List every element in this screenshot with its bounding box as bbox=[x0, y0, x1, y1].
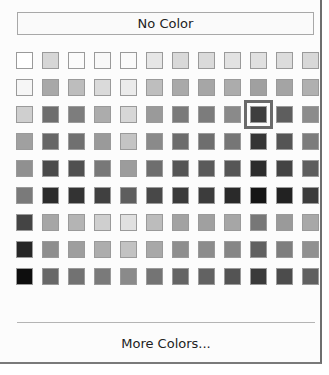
color-swatch[interactable] bbox=[94, 79, 111, 96]
color-swatch[interactable] bbox=[16, 52, 33, 69]
color-swatch[interactable] bbox=[276, 79, 293, 96]
color-swatch[interactable] bbox=[146, 52, 163, 69]
color-swatch[interactable] bbox=[16, 187, 33, 204]
color-swatch[interactable] bbox=[302, 52, 319, 69]
color-swatch[interactable] bbox=[224, 106, 241, 123]
color-swatch[interactable] bbox=[42, 268, 59, 285]
color-swatch[interactable] bbox=[224, 214, 241, 231]
color-swatch[interactable] bbox=[16, 241, 33, 258]
color-swatch[interactable] bbox=[68, 52, 85, 69]
color-swatch[interactable] bbox=[224, 187, 241, 204]
color-swatch[interactable] bbox=[250, 241, 267, 258]
color-swatch[interactable] bbox=[146, 160, 163, 177]
color-swatch[interactable] bbox=[224, 133, 241, 150]
color-swatch[interactable] bbox=[68, 241, 85, 258]
color-swatch[interactable] bbox=[120, 214, 137, 231]
color-swatch[interactable] bbox=[302, 106, 319, 123]
color-swatch[interactable] bbox=[94, 241, 111, 258]
color-swatch[interactable] bbox=[224, 79, 241, 96]
color-swatch[interactable] bbox=[276, 187, 293, 204]
color-swatch[interactable] bbox=[172, 187, 189, 204]
color-swatch[interactable] bbox=[198, 214, 215, 231]
color-swatch[interactable] bbox=[250, 52, 267, 69]
color-swatch[interactable] bbox=[42, 214, 59, 231]
color-swatch[interactable] bbox=[172, 160, 189, 177]
color-swatch[interactable] bbox=[42, 52, 59, 69]
color-swatch[interactable] bbox=[224, 52, 241, 69]
color-swatch[interactable] bbox=[146, 187, 163, 204]
color-swatch[interactable] bbox=[198, 106, 215, 123]
more-colors-button[interactable]: More Colors... bbox=[17, 330, 315, 358]
color-swatch[interactable] bbox=[146, 106, 163, 123]
color-swatch[interactable] bbox=[120, 268, 137, 285]
color-swatch[interactable] bbox=[68, 106, 85, 123]
color-swatch[interactable] bbox=[120, 52, 137, 69]
color-swatch[interactable] bbox=[276, 241, 293, 258]
color-swatch[interactable] bbox=[172, 214, 189, 231]
color-swatch[interactable] bbox=[42, 187, 59, 204]
color-swatch[interactable] bbox=[276, 106, 293, 123]
color-swatch[interactable] bbox=[146, 133, 163, 150]
color-swatch[interactable] bbox=[302, 241, 319, 258]
color-swatch[interactable] bbox=[172, 52, 189, 69]
color-swatch[interactable] bbox=[94, 187, 111, 204]
color-swatch[interactable] bbox=[250, 268, 267, 285]
color-swatch[interactable] bbox=[198, 79, 215, 96]
color-swatch[interactable] bbox=[224, 268, 241, 285]
color-swatch[interactable] bbox=[94, 52, 111, 69]
color-swatch[interactable] bbox=[276, 268, 293, 285]
color-swatch[interactable] bbox=[120, 187, 137, 204]
color-swatch[interactable] bbox=[198, 133, 215, 150]
color-swatch[interactable] bbox=[120, 133, 137, 150]
color-swatch[interactable] bbox=[250, 106, 267, 123]
color-swatch[interactable] bbox=[16, 133, 33, 150]
color-swatch[interactable] bbox=[302, 214, 319, 231]
color-swatch[interactable] bbox=[120, 79, 137, 96]
no-color-button[interactable]: No Color bbox=[17, 12, 314, 35]
color-swatch[interactable] bbox=[250, 79, 267, 96]
color-swatch[interactable] bbox=[276, 52, 293, 69]
color-swatch[interactable] bbox=[276, 160, 293, 177]
color-swatch[interactable] bbox=[302, 79, 319, 96]
color-swatch[interactable] bbox=[198, 268, 215, 285]
color-swatch[interactable] bbox=[120, 106, 137, 123]
color-swatch[interactable] bbox=[198, 160, 215, 177]
color-swatch[interactable] bbox=[68, 79, 85, 96]
color-swatch[interactable] bbox=[68, 133, 85, 150]
color-swatch[interactable] bbox=[94, 160, 111, 177]
color-swatch[interactable] bbox=[198, 241, 215, 258]
color-swatch[interactable] bbox=[68, 214, 85, 231]
color-swatch[interactable] bbox=[94, 214, 111, 231]
color-swatch[interactable] bbox=[68, 187, 85, 204]
color-swatch[interactable] bbox=[172, 241, 189, 258]
color-swatch[interactable] bbox=[42, 160, 59, 177]
color-swatch[interactable] bbox=[94, 133, 111, 150]
color-swatch[interactable] bbox=[146, 241, 163, 258]
color-swatch[interactable] bbox=[250, 160, 267, 177]
color-swatch[interactable] bbox=[68, 160, 85, 177]
color-swatch[interactable] bbox=[172, 268, 189, 285]
color-swatch[interactable] bbox=[16, 214, 33, 231]
color-swatch[interactable] bbox=[16, 268, 33, 285]
color-swatch[interactable] bbox=[250, 133, 267, 150]
color-swatch[interactable] bbox=[172, 79, 189, 96]
color-swatch[interactable] bbox=[302, 268, 319, 285]
color-swatch[interactable] bbox=[146, 214, 163, 231]
color-swatch[interactable] bbox=[42, 241, 59, 258]
color-swatch[interactable] bbox=[16, 79, 33, 96]
color-swatch[interactable] bbox=[146, 268, 163, 285]
color-swatch[interactable] bbox=[42, 106, 59, 123]
color-swatch[interactable] bbox=[276, 133, 293, 150]
color-swatch[interactable] bbox=[224, 241, 241, 258]
color-swatch[interactable] bbox=[16, 106, 33, 123]
color-swatch[interactable] bbox=[94, 106, 111, 123]
color-swatch[interactable] bbox=[68, 268, 85, 285]
color-swatch[interactable] bbox=[94, 268, 111, 285]
color-swatch[interactable] bbox=[172, 133, 189, 150]
color-swatch[interactable] bbox=[302, 133, 319, 150]
color-swatch[interactable] bbox=[302, 187, 319, 204]
color-swatch[interactable] bbox=[250, 187, 267, 204]
color-swatch[interactable] bbox=[146, 79, 163, 96]
color-swatch[interactable] bbox=[172, 106, 189, 123]
color-swatch[interactable] bbox=[42, 79, 59, 96]
